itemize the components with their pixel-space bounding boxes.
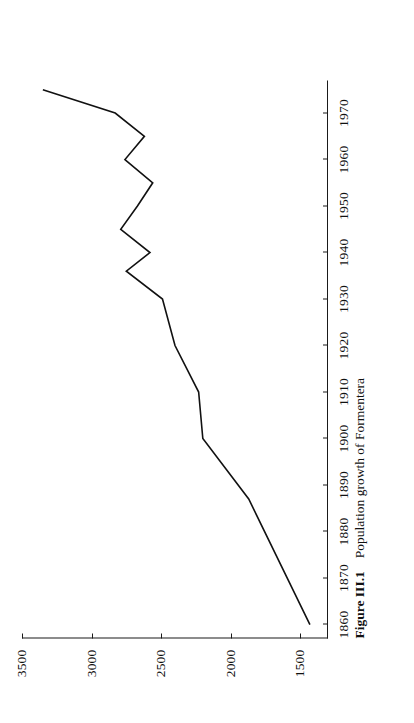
population-line-series (22, 80, 328, 638)
x-tick-label-1870: 1870 (336, 564, 352, 592)
series-polyline (43, 89, 310, 624)
x-tick-1860 (323, 623, 328, 624)
x-tick-1880 (323, 530, 328, 531)
y-tick-2500 (161, 633, 162, 638)
caption-text: Population growth of Formentera (352, 377, 367, 557)
x-tick-1900 (323, 437, 328, 438)
x-tick-label-1940: 1940 (336, 238, 352, 266)
y-tick-1500 (300, 633, 301, 638)
x-tick-label-1960: 1960 (336, 145, 352, 173)
x-tick-label-1920: 1920 (336, 331, 352, 359)
y-tick-label-2500: 2500 (153, 649, 169, 677)
x-tick-label-1860: 1860 (336, 610, 352, 638)
y-tick-label-2000: 2000 (223, 649, 239, 677)
x-tick-label-1890: 1890 (336, 471, 352, 499)
x-tick-1870 (323, 577, 328, 578)
y-tick-label-3500: 3500 (14, 649, 30, 677)
x-tick-label-1880: 1880 (336, 517, 352, 545)
y-tick-3000 (92, 633, 93, 638)
x-tick-1930 (323, 298, 328, 299)
figure-caption: Figure III.1Population growth of Forment… (352, 377, 368, 638)
x-tick-1950 (323, 205, 328, 206)
y-tick-label-1500: 1500 (292, 649, 308, 677)
plot-area: 1860187018801890190019101920193019401950… (22, 80, 328, 638)
rotated-figure-container: 1860187018801890190019101920193019401950… (0, 0, 414, 723)
x-tick-1970 (323, 112, 328, 113)
x-tick-1910 (323, 391, 328, 392)
caption-label: Figure III.1 (352, 571, 367, 638)
x-tick-label-1930: 1930 (336, 285, 352, 313)
y-tick-label-3000: 3000 (84, 649, 100, 677)
x-tick-label-1970: 1970 (336, 99, 352, 127)
y-tick-2000 (231, 633, 232, 638)
x-tick-1960 (323, 158, 328, 159)
x-tick-label-1900: 1900 (336, 424, 352, 452)
y-tick-3500 (22, 633, 23, 638)
figure-page: 1860187018801890190019101920193019401950… (0, 0, 414, 723)
x-tick-label-1950: 1950 (336, 192, 352, 220)
x-tick-1920 (323, 344, 328, 345)
x-tick-1940 (323, 251, 328, 252)
x-tick-label-1910: 1910 (336, 378, 352, 406)
x-tick-1890 (323, 484, 328, 485)
